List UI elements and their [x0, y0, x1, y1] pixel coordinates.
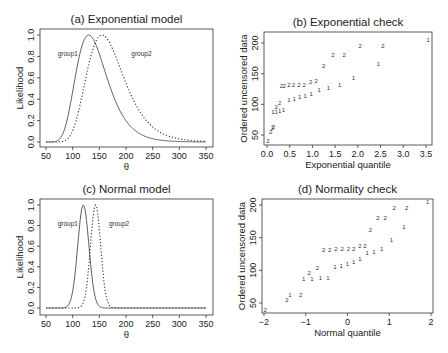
x-axis-label: θ [124, 329, 129, 340]
y-tick-label: 0.2 [26, 114, 36, 127]
point-group1: 1 [288, 292, 292, 298]
x-axis: −2−1012Normal quantile [259, 313, 434, 338]
y-axis: 0.00.20.40.60.81.0Likelihood [14, 199, 40, 315]
chart-title: (a) Exponential model [71, 13, 183, 25]
x-tick-label: 350 [198, 319, 213, 329]
point-group2: 2 [358, 43, 362, 49]
y-tick-label: 0.4 [26, 261, 36, 274]
point-group1: 1 [319, 275, 323, 281]
point-group2: 2 [381, 43, 385, 49]
plot-frame [40, 199, 213, 315]
point-group1: 1 [309, 91, 313, 97]
x-tick-label: 300 [172, 151, 187, 161]
x-tick-label: 150 [92, 151, 107, 161]
x-tick-label: 1.0 [306, 149, 319, 159]
y-tick-label: 50 [250, 130, 260, 140]
qq-points: 1111111111111111222222222222222222 [264, 199, 430, 313]
point-group2: 2 [316, 265, 320, 271]
point-group2: 2 [393, 205, 397, 211]
point-group2: 2 [363, 243, 367, 249]
x-tick-label: 100 [65, 319, 80, 329]
x-axis: 0.00.51.01.52.02.53.03.5Exponential quan… [261, 145, 433, 170]
panel-exponential-check: (b) Exponential check0.00.51.01.52.02.53… [238, 16, 432, 170]
y-tick-label: 0.6 [26, 72, 36, 85]
x-tick-label: −1 [301, 317, 311, 327]
x-axis-label: Exponential quantile [305, 159, 391, 170]
point-group1: 1 [426, 199, 430, 205]
x-tick-label: 2.0 [352, 149, 365, 159]
point-group1: 1 [352, 259, 356, 265]
point-group1: 1 [365, 250, 369, 256]
y-axis-label: Ordered uncensored data [238, 34, 249, 143]
point-group2: 2 [264, 307, 268, 313]
point-group2: 2 [272, 124, 276, 130]
x-tick-label: 1.5 [329, 149, 342, 159]
point-group1: 1 [427, 37, 431, 43]
x-tick-label: 100 [65, 151, 80, 161]
y-tick-label: 0.4 [26, 93, 36, 106]
point-group1: 1 [346, 261, 350, 267]
x-tick-label: 2.5 [374, 149, 387, 159]
y-tick-label: 150 [250, 66, 260, 81]
point-group1: 1 [298, 94, 302, 100]
y-tick-label: 0.0 [26, 302, 36, 315]
x-tick-label: 2 [428, 317, 433, 327]
x-tick-label: 50 [41, 151, 51, 161]
point-group1: 1 [282, 107, 286, 113]
panel-exponential-model: (a) Exponential model5010015020025030035… [14, 13, 214, 172]
y-tick-label: 1.0 [26, 199, 36, 212]
x-tick-label: 250 [145, 151, 160, 161]
point-group2: 2 [322, 247, 326, 253]
x-tick-label: 0 [345, 317, 350, 327]
y-tick-label: 0.6 [26, 240, 36, 253]
x-axis: 50100150200250300350θ [41, 315, 214, 340]
point-group2: 2 [283, 83, 287, 89]
point-group1: 1 [333, 264, 337, 270]
y-tick-label: 200 [250, 35, 260, 50]
y-tick-label: 0.8 [26, 219, 36, 232]
point-group1: 1 [372, 249, 376, 255]
point-group1: 1 [303, 93, 307, 99]
y-axis: 50100150200Ordered uncensored data [238, 34, 264, 143]
x-tick-label: 200 [118, 151, 133, 161]
point-group2: 2 [297, 82, 301, 88]
x-tick-label: 300 [172, 319, 187, 329]
y-axis-label: Likelihood [14, 67, 25, 110]
y-tick-label: 0.0 [26, 136, 36, 149]
y-tick-label: 1.0 [26, 29, 36, 42]
point-group2: 2 [278, 100, 282, 106]
point-group2: 2 [352, 246, 356, 252]
point-group1: 1 [390, 237, 394, 243]
point-group2: 2 [369, 227, 373, 233]
x-tick-label: 150 [92, 319, 107, 329]
point-group2: 2 [340, 246, 344, 252]
y-tick-label: 200 [248, 197, 258, 212]
figure: (a) Exponential model5010015020025030035… [0, 0, 448, 353]
x-axis-label: θ [124, 161, 129, 172]
y-tick-label: 150 [248, 230, 258, 245]
point-group1: 1 [326, 275, 330, 281]
annotation-group2: group2 [131, 50, 152, 58]
annotation-group2: group2 [109, 220, 130, 228]
point-group2: 2 [331, 52, 335, 58]
point-group2: 2 [322, 63, 326, 69]
y-axis: 50100150200Ordered uncensored data [236, 197, 262, 310]
point-group1: 1 [358, 256, 362, 262]
x-tick-label: 200 [118, 319, 133, 329]
point-group2: 2 [299, 292, 303, 298]
panel-normal-model: (c) Normal model50100150200250300350θ0.0… [14, 183, 214, 340]
point-group2: 2 [266, 138, 270, 144]
point-group1: 1 [340, 263, 344, 269]
y-axis-label: Likelihood [14, 236, 25, 279]
point-group1: 1 [352, 75, 356, 81]
x-tick-label: 350 [198, 151, 213, 161]
point-group2: 2 [303, 82, 307, 88]
x-tick-label: 3.5 [420, 149, 433, 159]
point-group1: 1 [287, 97, 291, 103]
y-tick-label: 100 [248, 263, 258, 278]
x-tick-label: 0.5 [283, 149, 296, 159]
point-group1: 1 [402, 224, 406, 230]
chart-title: (c) Normal model [82, 183, 170, 195]
point-group1: 1 [318, 87, 322, 93]
x-tick-label: 1 [387, 317, 392, 327]
